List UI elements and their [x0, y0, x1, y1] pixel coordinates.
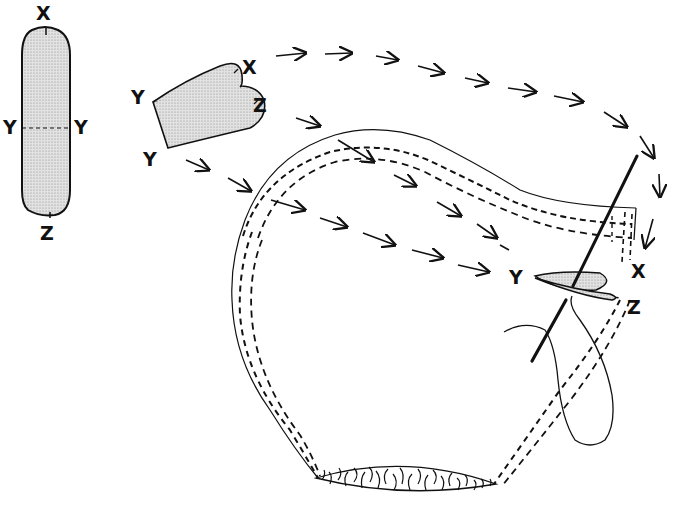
arrow-icon: [363, 233, 395, 245]
insert-piece: [535, 272, 616, 300]
fur-trim-icon: [316, 466, 496, 490]
arrow-icon: [412, 250, 443, 258]
folded-label-x: X: [242, 58, 257, 77]
arrow-icon: [645, 219, 653, 248]
strip-label-x: X: [36, 4, 51, 23]
diagram-canvas: X Y Y Z Y Y X Z Y X Z: [0, 0, 679, 515]
needle-icon: [532, 156, 637, 361]
arrow-icon: [276, 53, 306, 56]
arrow-icon: [554, 96, 583, 102]
arrow-icon: [418, 66, 444, 73]
folded-label-y-bottom: Y: [143, 150, 157, 169]
arrow-icon: [228, 178, 251, 191]
arrow-icon: [296, 118, 320, 126]
thread-loop-icon: [504, 296, 613, 445]
arrow-icon: [465, 78, 488, 83]
arrow-icon: [500, 245, 509, 250]
folded-label-z: Z: [253, 96, 267, 115]
strip-label-y-right: Y: [74, 118, 88, 137]
arrow-icon: [477, 224, 497, 238]
assembly-label-z: Z: [627, 298, 641, 317]
arrow-icon: [508, 88, 536, 92]
arrow-icon: [325, 53, 352, 54]
diagram-drawing: [0, 0, 679, 515]
arrow-icon: [659, 174, 660, 197]
folded-label-y-top: Y: [131, 88, 145, 107]
strip-label-z: Z: [40, 224, 54, 243]
arrow-icon: [458, 265, 489, 272]
arrow-icon: [376, 56, 398, 60]
assembly-label-y: Y: [509, 268, 523, 287]
arrow-icon: [394, 175, 416, 186]
arrow-icon: [640, 136, 654, 158]
arrow-icon: [320, 218, 347, 227]
garment-body: [232, 130, 636, 486]
arrow-icon: [437, 202, 461, 216]
strip-piece: [22, 27, 70, 218]
arrow-path-top: [276, 53, 660, 248]
assembly-label-x: X: [631, 262, 646, 281]
strip-label-y-left: Y: [3, 118, 17, 137]
arrow-icon: [604, 112, 627, 127]
arrow-icon: [186, 160, 209, 170]
